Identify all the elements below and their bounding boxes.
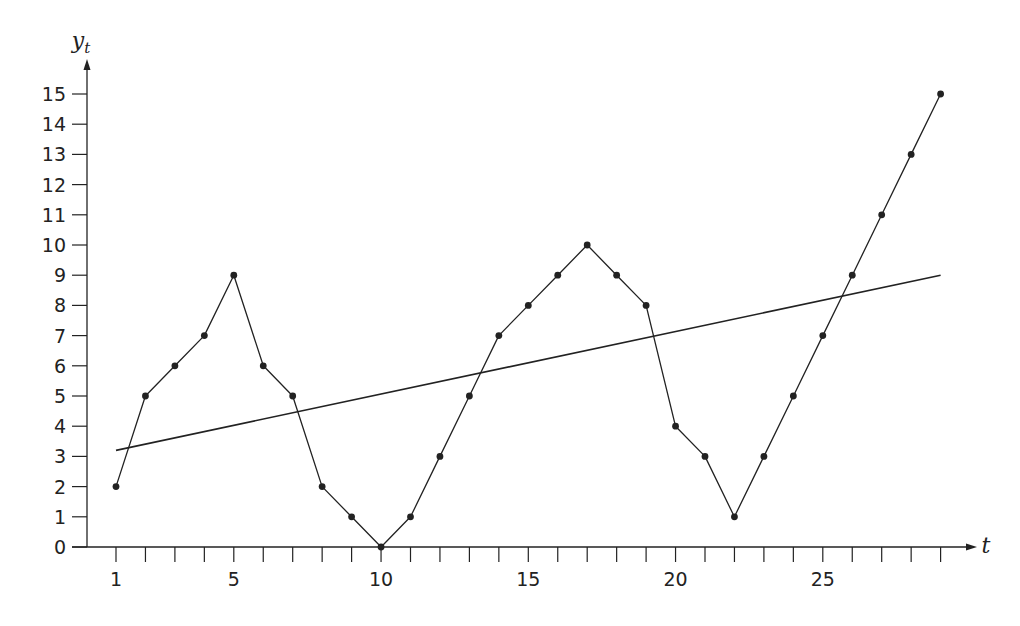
data-point-marker [260, 362, 267, 369]
x-axis: 1510152025 [72, 544, 977, 591]
data-point-marker [584, 242, 591, 249]
y-tick-label: 14 [42, 113, 66, 135]
data-point-marker [908, 151, 915, 158]
data-point-marker [378, 544, 385, 551]
y-tick-label: 4 [54, 415, 66, 437]
data-point-marker [407, 513, 414, 520]
y-tick-label: 12 [42, 174, 66, 196]
data-point-marker [113, 483, 120, 490]
x-axis-arrow-icon [966, 544, 977, 551]
data-point-marker [643, 302, 650, 309]
x-tick-label: 15 [516, 568, 540, 590]
y-tick-label: 7 [54, 325, 66, 347]
x-tick-label: 1 [110, 568, 122, 590]
data-point-marker [672, 423, 679, 430]
y-tick-label: 1 [54, 506, 66, 528]
y-tick-label: 0 [54, 536, 66, 558]
data-point-marker [172, 362, 179, 369]
y-tick-label: 9 [54, 264, 66, 286]
data-point-marker [437, 453, 444, 460]
data-point-marker [878, 211, 885, 218]
x-tick-label: 10 [369, 568, 393, 590]
data-point-marker [348, 513, 355, 520]
y-tick-label: 8 [54, 294, 66, 316]
x-tick-label: 20 [663, 568, 687, 590]
x-axis-label: t [982, 533, 991, 558]
time-series-chart: 0123456789101112131415 1510152025 ytt [0, 0, 1020, 626]
data-point-marker [849, 272, 856, 279]
y-tick-label: 15 [42, 83, 66, 105]
data-point-marker [554, 272, 561, 279]
y-tick-label: 2 [54, 476, 66, 498]
data-point-marker [319, 483, 326, 490]
data-point-marker [937, 91, 944, 98]
y-axis: 0123456789101112131415 [42, 59, 91, 558]
trend-line-path [116, 275, 941, 450]
data-point-marker [466, 393, 473, 400]
y-tick-label: 3 [54, 445, 66, 467]
y-axis-label-subscript: t [84, 39, 91, 57]
axis-labels: ytt [71, 28, 991, 558]
data-point-marker [702, 453, 709, 460]
data-point-marker [142, 393, 149, 400]
y-tick-label: 5 [54, 385, 66, 407]
data-point-marker [613, 272, 620, 279]
x-tick-label: 5 [228, 568, 240, 590]
data-point-marker [761, 453, 768, 460]
y-axis-arrow-icon [84, 59, 91, 70]
data-point-marker [289, 393, 296, 400]
data-series [113, 91, 944, 551]
data-point-marker [201, 332, 208, 339]
data-point-marker [819, 332, 826, 339]
chart-canvas: 0123456789101112131415 1510152025 ytt [0, 0, 1020, 626]
y-tick-label: 6 [54, 355, 66, 377]
data-point-marker [731, 513, 738, 520]
x-tick-label: 25 [811, 568, 835, 590]
series-line [116, 94, 941, 547]
y-axis-label: yt [71, 28, 91, 57]
data-point-marker [525, 302, 532, 309]
trend-line [116, 275, 941, 450]
data-point-marker [790, 393, 797, 400]
y-tick-label: 11 [42, 204, 66, 226]
y-tick-label: 13 [42, 143, 66, 165]
data-point-marker [495, 332, 502, 339]
data-point-marker [230, 272, 237, 279]
y-tick-label: 10 [42, 234, 66, 256]
y-axis-label-main: y [71, 28, 85, 53]
